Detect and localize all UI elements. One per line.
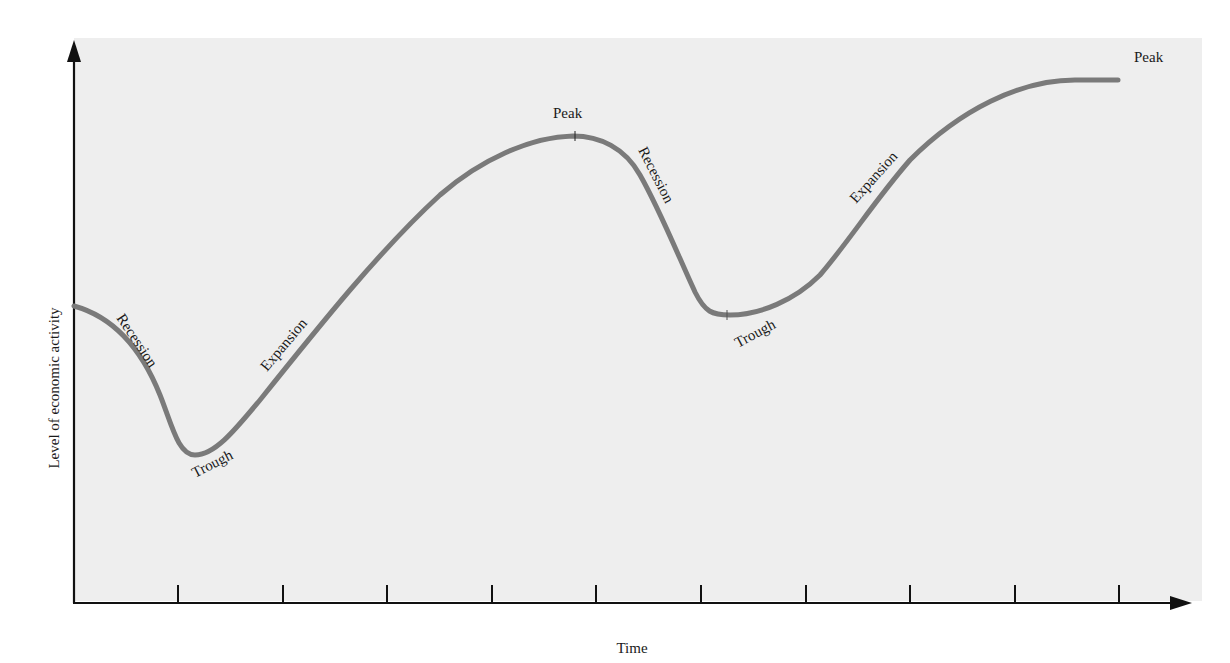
label-peak-2: Peak — [1134, 49, 1164, 65]
label-recession-1: Recession — [114, 311, 162, 371]
y-axis-label: Level of economic activity — [46, 307, 63, 468]
label-peak-1: Peak — [553, 105, 583, 121]
x-axis-arrow-icon — [1170, 596, 1192, 610]
label-trough-2: Trough — [732, 316, 778, 351]
business-cycle-diagram: Recession Trough Expansion Peak Recessio… — [0, 0, 1230, 663]
y-axis-arrow-icon — [67, 40, 81, 62]
x-axis-ticks — [178, 585, 1119, 603]
x-axis-label: Time — [616, 640, 647, 657]
business-cycle-curve — [74, 80, 1118, 455]
